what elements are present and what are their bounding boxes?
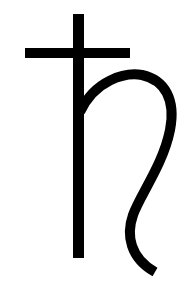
hook-curve xyxy=(80,74,172,272)
saturn-symbol-icon xyxy=(0,0,191,282)
crossbar xyxy=(25,48,130,58)
